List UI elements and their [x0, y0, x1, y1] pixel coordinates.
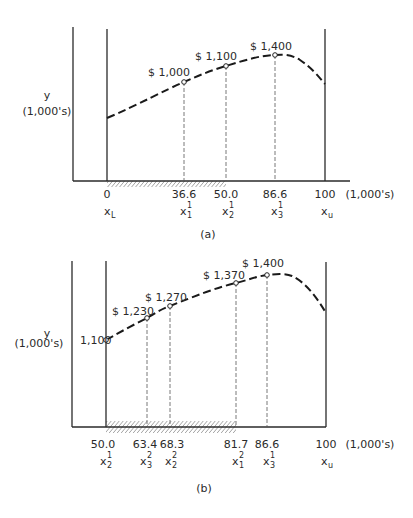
svg-text:2: 2	[147, 451, 152, 460]
var-label: x 1 2	[222, 201, 234, 220]
tick-value: 63.4	[133, 438, 158, 451]
svg-text:1: 1	[229, 201, 234, 210]
var-label: x u	[321, 455, 333, 470]
svg-text:x: x	[321, 205, 328, 218]
svg-text:x: x	[180, 205, 187, 218]
svg-text:u: u	[328, 211, 333, 220]
var-label: x L	[104, 205, 116, 220]
data-point	[273, 53, 278, 58]
data-point	[182, 80, 187, 85]
search-diagram: $ 1,000 $ 1,100 $ 1,400 y (1,000's) 0 36…	[0, 0, 413, 518]
data-point	[265, 273, 270, 278]
tick-value: 36.6	[172, 188, 197, 201]
svg-text:1: 1	[239, 461, 244, 470]
svg-text:3: 3	[147, 461, 152, 470]
remaining-interval-hatch	[107, 181, 226, 187]
panel-caption: (a)	[200, 228, 215, 241]
svg-text:x: x	[263, 455, 270, 468]
data-point	[224, 64, 229, 69]
svg-text:1: 1	[187, 201, 192, 210]
svg-text:3: 3	[278, 211, 283, 220]
start-value-label: 1,100	[80, 334, 112, 347]
x-axis-unit: (1,000's)	[346, 438, 395, 451]
y-axis-unit: (1,000's)	[23, 105, 72, 118]
var-label: x 2 2	[165, 451, 177, 470]
svg-text:2: 2	[172, 461, 177, 470]
svg-text:3: 3	[270, 461, 275, 470]
tick-value: 86.6	[255, 438, 280, 451]
svg-text:x: x	[104, 205, 111, 218]
var-label: x 1 2	[100, 451, 112, 470]
svg-text:x: x	[271, 205, 278, 218]
y-axis-unit: (1,000's)	[15, 337, 64, 350]
objective-curve	[107, 55, 325, 118]
panel-caption: (b)	[196, 482, 212, 495]
svg-text:L: L	[111, 211, 116, 220]
svg-text:u: u	[328, 461, 333, 470]
var-label: x u	[321, 205, 333, 220]
y-axis-label: y	[44, 89, 51, 102]
svg-text:2: 2	[239, 451, 244, 460]
point-label: $ 1,400	[242, 257, 284, 270]
svg-text:x: x	[140, 455, 147, 468]
svg-text:2: 2	[107, 461, 112, 470]
svg-text:x: x	[232, 455, 239, 468]
var-label: x 2 1	[232, 451, 244, 470]
var-label: x 1 3	[271, 201, 283, 220]
svg-text:x: x	[222, 205, 229, 218]
remaining-interval-hatch	[106, 421, 236, 433]
var-label: x 1 1	[180, 201, 192, 220]
tick-value: 86.6	[263, 188, 288, 201]
tick-value: 100	[316, 438, 337, 451]
svg-text:1: 1	[107, 451, 112, 460]
svg-text:1: 1	[270, 451, 275, 460]
point-label: $ 1,370	[203, 269, 245, 282]
tick-value: 50.0	[214, 188, 239, 201]
panel-b: 1,100 $ 1,230 $ 1,270 $ 1,370 $ 1,400 y …	[15, 257, 395, 495]
panel-a: $ 1,000 $ 1,100 $ 1,400 y (1,000's) 0 36…	[23, 27, 395, 241]
point-label: $ 1,270	[145, 291, 187, 304]
svg-text:1: 1	[278, 201, 283, 210]
svg-text:1: 1	[187, 211, 192, 220]
point-label: $ 1,400	[250, 40, 292, 53]
x-axis-unit: (1,000's)	[346, 188, 395, 201]
var-label: x 1 3	[263, 451, 275, 470]
svg-text:x: x	[100, 455, 107, 468]
svg-text:x: x	[321, 455, 328, 468]
var-label: x 2 3	[140, 451, 152, 470]
svg-text:x: x	[165, 455, 172, 468]
svg-text:2: 2	[172, 451, 177, 460]
data-point	[168, 304, 173, 309]
point-label: $ 1,100	[195, 50, 237, 63]
point-label: $ 1,000	[148, 66, 190, 79]
tick-value: 50.0	[91, 438, 116, 451]
svg-text:2: 2	[229, 211, 234, 220]
tick-value: 81.7	[224, 438, 249, 451]
tick-value: 0	[104, 188, 111, 201]
tick-value: 100	[315, 188, 336, 201]
point-label: $ 1,230	[112, 305, 154, 318]
tick-value: 68.3	[160, 438, 185, 451]
